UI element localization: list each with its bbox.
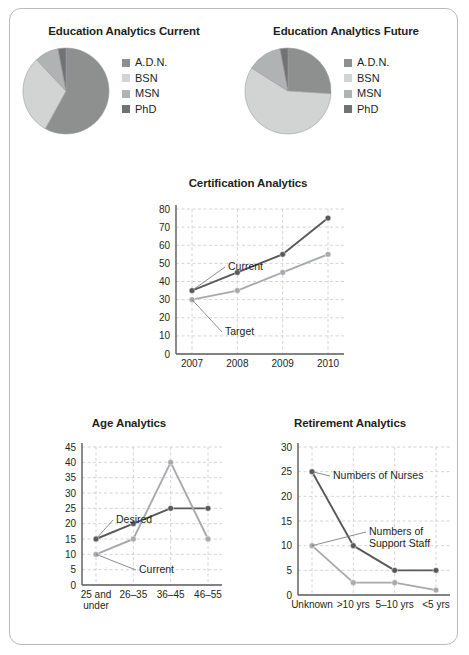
legend-item-phd: PhD: [344, 102, 444, 118]
certification-plot-area: 010203040506070802007200820092010Current…: [150, 201, 350, 376]
x-tick-label: 46–55: [194, 589, 222, 600]
education-analytics-current-chart: Education Analytics Current A.D.N. BSN M…: [12, 25, 236, 165]
y-tick-label: 20: [281, 491, 293, 502]
annotation-leader-line: [192, 300, 222, 332]
legend-swatch-bsn: [344, 74, 352, 82]
legend-swatch-adn: [344, 59, 352, 67]
legend-education-current: A.D.N. BSN MSN PhD: [122, 55, 222, 117]
legend-label-bsn: BSN: [135, 73, 158, 84]
legend-swatch-bsn: [122, 74, 130, 82]
x-tick-label: 2008: [226, 358, 249, 369]
x-tick-label: 2007: [181, 358, 204, 369]
x-tick-label: 5–10 yrs: [375, 599, 413, 610]
legend-swatch-msn: [344, 90, 352, 98]
y-tick-label: 45: [65, 442, 77, 453]
series-line-current: [192, 218, 328, 291]
data-point: [433, 567, 439, 573]
annotation-label: Desired: [116, 513, 152, 525]
legend-label-adn: A.D.N.: [357, 57, 389, 68]
legend-label-bsn: BSN: [357, 73, 380, 84]
y-tick-label: 25: [281, 466, 293, 477]
data-point: [392, 567, 398, 573]
y-tick-label: 0: [70, 580, 76, 591]
annotation-label: Current: [139, 563, 174, 575]
y-tick-label: 35: [65, 472, 77, 483]
data-point: [205, 536, 211, 542]
legend-swatch-phd: [344, 105, 352, 113]
x-tick-label: 26–35: [119, 589, 147, 600]
y-tick-label: 15: [281, 516, 293, 527]
y-tick-label: 5: [70, 564, 76, 575]
data-point: [350, 580, 356, 586]
infographic-page: Education Analytics Current A.D.N. BSN M…: [9, 8, 458, 645]
y-tick-label: 30: [159, 294, 171, 305]
legend-label-phd: PhD: [135, 104, 156, 115]
x-tick-label: 25 and: [81, 589, 112, 600]
annotation-label: Numbers of: [369, 525, 423, 537]
data-point: [234, 288, 240, 294]
data-point: [325, 251, 331, 257]
pie-current: [22, 47, 110, 135]
legend-item-adn: A.D.N.: [344, 55, 444, 71]
y-tick-label: 30: [281, 442, 293, 453]
x-tick-label: Unknown: [291, 599, 333, 610]
y-tick-label: 10: [281, 540, 293, 551]
data-point: [392, 580, 398, 586]
legend-swatch-msn: [122, 90, 130, 98]
legend-label-adn: A.D.N.: [135, 57, 167, 68]
y-tick-label: 30: [65, 488, 77, 499]
annotation-label: Target: [225, 325, 254, 337]
legend-label-phd: PhD: [357, 104, 378, 115]
y-tick-label: 20: [65, 518, 77, 529]
annotation-label: Support Staff: [369, 537, 430, 549]
y-tick-label: 60: [159, 240, 171, 251]
x-tick-label: >10 yrs: [337, 599, 370, 610]
annotation-leader-line: [312, 532, 366, 546]
legend-swatch-phd: [122, 105, 130, 113]
y-tick-label: 40: [65, 457, 77, 468]
data-point: [280, 270, 286, 276]
data-point: [130, 536, 136, 542]
certification-analytics-chart: Certification Analytics 0102030405060708…: [98, 177, 398, 395]
data-point: [205, 505, 211, 511]
legend-education-future: A.D.N. BSN MSN PhD: [344, 55, 444, 117]
series-line-numbers-of-nurses: [312, 472, 436, 571]
legend-swatch-adn: [122, 59, 130, 67]
y-tick-label: 70: [159, 222, 171, 233]
data-point: [168, 505, 174, 511]
y-tick-label: 50: [159, 258, 171, 269]
annotation-label: Current: [228, 260, 263, 272]
data-point: [168, 459, 174, 465]
pie-slice-adn: [288, 48, 331, 94]
legend-item-adn: A.D.N.: [122, 55, 222, 71]
legend-item-msn: MSN: [122, 86, 222, 102]
series-line-numbers-of-support-staff: [312, 546, 436, 590]
legend-item-bsn: BSN: [122, 71, 222, 87]
legend-label-msn: MSN: [135, 88, 159, 99]
annotation-leader-line: [96, 554, 136, 570]
y-tick-label: 10: [159, 330, 171, 341]
retirement-analytics-chart: Retirement Analytics 051015202530Unknown…: [242, 417, 458, 642]
data-point: [350, 543, 356, 549]
data-point: [280, 251, 286, 257]
retirement-plot-area: 051015202530Unknown>10 yrs5–10 yrs<5 yrs…: [274, 439, 454, 619]
chart-title-retirement: Retirement Analytics: [242, 417, 458, 429]
y-tick-label: 5: [286, 565, 292, 576]
legend-item-bsn: BSN: [344, 71, 444, 87]
legend-item-phd: PhD: [122, 102, 222, 118]
x-tick-label: 2010: [317, 358, 340, 369]
x-tick-label: 36–45: [157, 589, 185, 600]
y-tick-label: 40: [159, 276, 171, 287]
y-tick-label: 0: [164, 349, 170, 360]
x-tick-label: under: [83, 600, 109, 611]
legend-item-msn: MSN: [344, 86, 444, 102]
y-tick-label: 25: [65, 503, 77, 514]
chart-title-certification: Certification Analytics: [98, 177, 398, 189]
chart-title-education-current: Education Analytics Current: [12, 25, 236, 37]
y-tick-label: 15: [65, 534, 77, 545]
data-point: [325, 215, 331, 221]
x-tick-label: <5 yrs: [422, 599, 450, 610]
data-point: [433, 587, 439, 593]
y-tick-label: 20: [159, 312, 171, 323]
y-tick-label: 80: [159, 204, 171, 215]
